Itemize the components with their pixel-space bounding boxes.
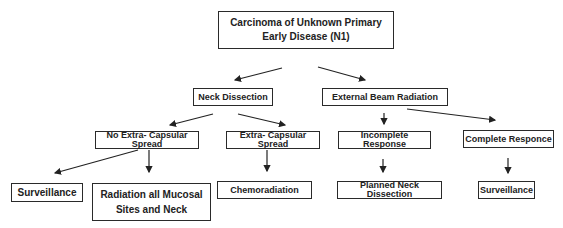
node-label: Surveillance: [18, 188, 77, 198]
node-label: Chemoradiation: [230, 186, 299, 195]
node-label: Neck Dissection: [198, 93, 268, 102]
node-extra-capsular-spread: Extra- Capsular Spread: [226, 131, 320, 149]
node-root-line1: Carcinoma of Unknown Primary: [230, 18, 382, 28]
node-chemoradiation: Chemoradiation: [217, 181, 312, 199]
node-label-line1: Radiation all Mucosal: [100, 190, 202, 200]
node-external-beam-radiation: External Beam Radiation: [322, 88, 448, 106]
node-label: Extra- Capsular Spread: [227, 131, 319, 149]
node-label: Incomplete Response: [339, 131, 430, 149]
node-label: External Beam Radiation: [332, 93, 438, 102]
node-root: Carcinoma of Unknown Primary Early Disea…: [218, 11, 394, 49]
node-label: No Extra- Capsular Spread: [96, 131, 198, 149]
node-radiation-all-mucosal: Radiation all Mucosal Sites and Neck: [92, 183, 211, 221]
node-label: Planned Neck Dissection: [338, 181, 441, 199]
node-surveillance-left: Surveillance: [11, 183, 83, 202]
node-surveillance-right: Surveillance: [478, 181, 535, 199]
node-incomplete-response: Incomplete Response: [338, 131, 431, 149]
node-label: Surveillance: [480, 186, 533, 195]
node-no-extra-capsular-spread: No Extra- Capsular Spread: [95, 131, 199, 149]
node-complete-response: Complete Responce: [463, 130, 554, 148]
node-label-line2: Sites and Neck: [116, 205, 187, 215]
node-label: Complete Responce: [465, 135, 552, 144]
node-neck-dissection: Neck Dissection: [193, 88, 273, 106]
node-root-line2: Early Disease (N1): [262, 32, 349, 42]
node-planned-neck-dissection: Planned Neck Dissection: [337, 181, 442, 199]
